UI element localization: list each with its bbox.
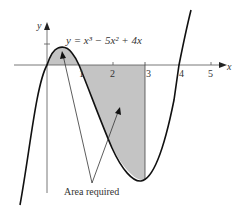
x-tick-label-4: 4 [179, 68, 184, 79]
x-axis-label: x [226, 61, 232, 72]
shaded-area-1-3 [79, 65, 145, 180]
x-tick-label-1: 1 [79, 68, 84, 79]
x-tick-label-5: 5 [208, 68, 213, 79]
x-tick-label-2: 2 [110, 68, 115, 79]
x-axis-arrow-icon [219, 62, 227, 68]
y-axis-label: y [36, 20, 42, 31]
x-tick-label-3: 3 [146, 68, 151, 79]
area-required-label: Area required [64, 186, 119, 197]
cubic-area-diagram: y = x³ − 5x² + 4x y x 1 2 3 4 5 Area req… [0, 0, 245, 218]
y-axis-arrow-icon [44, 22, 50, 30]
equation-label: y = x³ − 5x² + 4x [65, 34, 142, 46]
